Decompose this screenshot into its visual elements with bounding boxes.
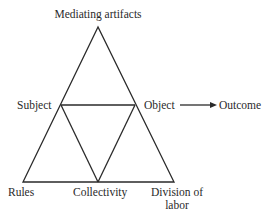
- label-division-of-labor-line1: Division of: [148, 186, 206, 199]
- label-mediating-artifacts: Mediating artifacts: [48, 8, 148, 21]
- arrowhead-icon: [210, 102, 217, 108]
- label-outcome: Outcome: [219, 99, 261, 112]
- label-subject: Subject: [17, 99, 52, 112]
- edge-subject-collectivity: [61, 105, 98, 182]
- edge-object-collectivity: [98, 105, 135, 182]
- label-object: Object: [144, 99, 175, 112]
- label-collectivity: Collectivity: [73, 186, 127, 199]
- label-rules: Rules: [8, 186, 34, 199]
- label-division-of-labor-line2: labor: [148, 199, 206, 212]
- label-division-of-labor: Division of labor: [148, 186, 206, 212]
